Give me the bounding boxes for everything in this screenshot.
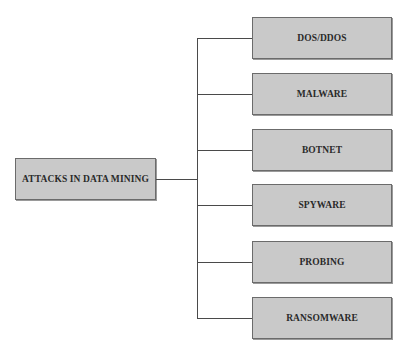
root-connector bbox=[156, 179, 198, 180]
branch-connector-3 bbox=[197, 150, 252, 151]
node-label: RANSOMWARE bbox=[286, 313, 358, 323]
root-node-label: ATTACKS IN DATA MINING bbox=[22, 174, 149, 184]
branch-connector-5 bbox=[197, 262, 252, 263]
node-botnet: BOTNET bbox=[252, 129, 392, 171]
node-label: BOTNET bbox=[302, 145, 342, 155]
branch-connector-2 bbox=[197, 94, 252, 95]
branch-connector-4 bbox=[197, 205, 252, 206]
node-malware: MALWARE bbox=[252, 73, 392, 115]
node-label: DOS/DDOS bbox=[297, 33, 346, 43]
trunk-connector bbox=[197, 38, 198, 319]
root-node-attacks-in-data-mining: ATTACKS IN DATA MINING bbox=[15, 158, 156, 200]
node-label: SPYWARE bbox=[298, 200, 345, 210]
branch-connector-1 bbox=[197, 38, 252, 39]
branch-connector-6 bbox=[197, 318, 252, 319]
node-probing: PROBING bbox=[252, 241, 392, 283]
node-dos-ddos: DOS/DDOS bbox=[252, 17, 392, 59]
node-ransomware: RANSOMWARE bbox=[252, 297, 392, 339]
node-label: PROBING bbox=[299, 257, 344, 267]
node-spyware: SPYWARE bbox=[252, 184, 392, 226]
node-label: MALWARE bbox=[297, 89, 348, 99]
